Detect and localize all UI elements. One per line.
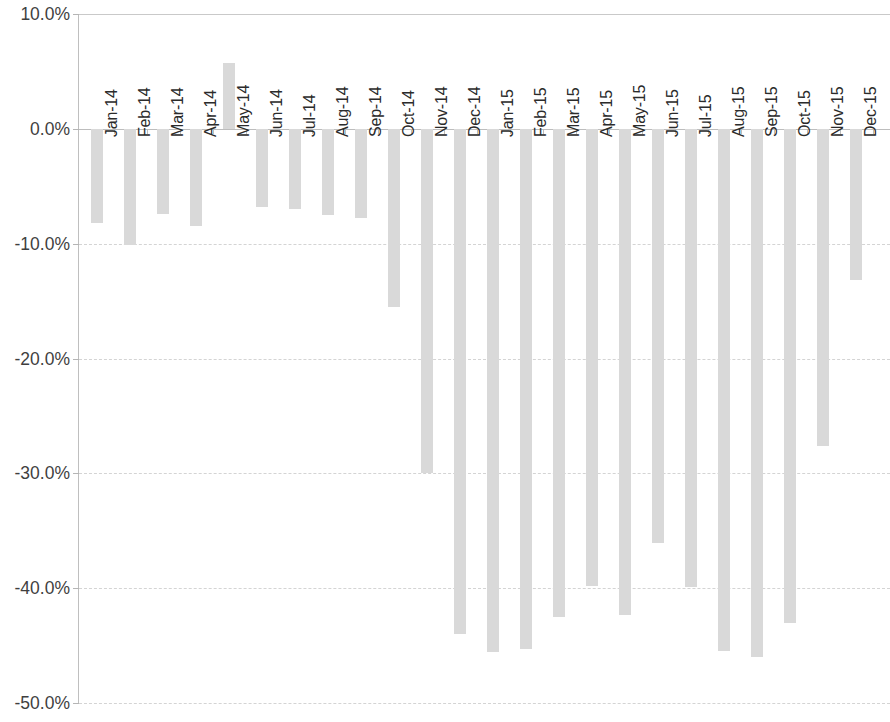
x-axis-tick-label: May-14 — [235, 85, 253, 137]
x-axis-tick-label: Apr-15 — [598, 90, 616, 137]
x-axis-tick-label: Aug-15 — [730, 86, 748, 136]
x-axis-tick-label: Mar-15 — [565, 87, 583, 136]
x-axis-tick-label: Nov-15 — [829, 86, 847, 136]
x-axis-tick-label: Oct-15 — [796, 90, 814, 137]
y-axis-tick-label: 10.0% — [0, 4, 70, 25]
x-axis-tick-label: Dec-14 — [466, 86, 484, 136]
x-axis-tick-label: Mar-14 — [169, 87, 187, 136]
x-axis-label-layer: Jan-14Feb-14Mar-14Apr-14May-14Jun-14Jul-… — [79, 14, 890, 703]
x-axis-tick-label: Oct-14 — [400, 90, 418, 137]
x-axis-tick-label: Sep-15 — [763, 86, 781, 136]
x-axis-tick-label: Jul-14 — [301, 94, 319, 136]
x-axis-tick-label: Dec-15 — [862, 86, 880, 136]
x-axis-tick-label: Jun-15 — [664, 89, 682, 137]
x-axis-tick-label: May-15 — [631, 85, 649, 137]
y-axis-tick — [73, 703, 79, 704]
x-axis-tick-label: Apr-14 — [202, 90, 220, 137]
plot-area: Jan-14Feb-14Mar-14Apr-14May-14Jun-14Jul-… — [78, 14, 890, 703]
x-axis-tick-label: Jun-14 — [268, 89, 286, 137]
y-axis-tick-label: -40.0% — [0, 578, 70, 599]
y-axis-tick-label: -20.0% — [0, 348, 70, 369]
y-axis-tick-label: -50.0% — [0, 693, 70, 714]
x-axis-tick-label: Sep-14 — [367, 86, 385, 136]
x-axis-tick-label: Nov-14 — [433, 86, 451, 136]
gridline — [79, 703, 890, 704]
x-axis-tick-label: Feb-14 — [136, 87, 154, 137]
x-axis-tick-label: Jul-15 — [697, 94, 715, 136]
bar-chart: 10.0%0.0%-10.0%-20.0%-30.0%-40.0%-50.0% … — [0, 0, 890, 722]
x-axis-tick-label: Jan-14 — [103, 89, 121, 137]
y-axis-tick-label: -10.0% — [0, 233, 70, 254]
x-axis-tick-label: Feb-15 — [532, 87, 550, 137]
y-axis-tick-label: -30.0% — [0, 463, 70, 484]
x-axis-tick-label: Jan-15 — [499, 89, 517, 137]
x-axis-tick-label: Aug-14 — [334, 86, 352, 136]
y-axis-tick-label: 0.0% — [0, 118, 70, 139]
